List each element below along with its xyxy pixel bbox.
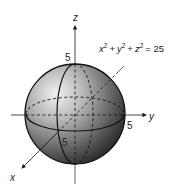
y-axis-label: y [148,111,155,122]
x-axis-label: x [9,172,16,183]
x-tick-5: 5 [62,137,68,148]
y-tick-5: 5 [127,120,133,131]
x-axis-back [118,66,124,72]
sphere-diagram: z y x 5 5 5 x2+y2+z2= 25 [0,0,191,191]
sphere-equation: x2+y2+z2= 25 [98,42,164,54]
z-axis-label: z [72,12,78,23]
z-tick-5: 5 [65,52,71,63]
